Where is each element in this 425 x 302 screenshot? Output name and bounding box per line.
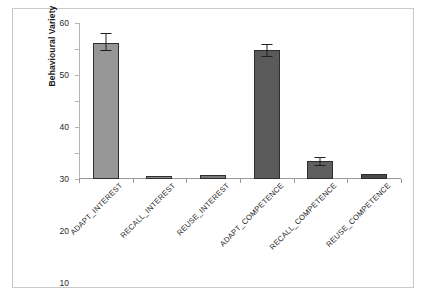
y-tick-label: 40 <box>60 122 69 132</box>
chart-screenshot: Behavioural Variety 0102030405060 ADAPT_… <box>0 0 425 302</box>
bar[interactable] <box>146 176 172 179</box>
y-tick-label: 10 <box>60 278 69 288</box>
bars-layer <box>79 23 401 179</box>
x-axis-labels: ADAPT_INTERESTRECALL_INTERESTREUSE_INTER… <box>79 181 401 291</box>
error-bar <box>315 157 326 166</box>
y-tick-label: 50 <box>60 70 69 80</box>
error-bar-cap-bottom <box>315 165 326 166</box>
error-bar-stem <box>266 44 267 58</box>
bar-group <box>186 23 240 179</box>
error-bar-stem <box>105 33 106 51</box>
bar-group <box>133 23 187 179</box>
x-tick-mark <box>401 179 402 183</box>
y-axis-title: Behavioural Variety <box>47 0 57 111</box>
plot-area: 0102030405060 <box>79 23 401 179</box>
y-tick-label: 60 <box>60 18 69 28</box>
error-bar-cap-bottom <box>100 50 111 51</box>
bar-group <box>79 23 133 179</box>
bar[interactable] <box>361 174 387 179</box>
error-bar-cap-bottom <box>261 56 272 57</box>
bar[interactable] <box>254 50 280 179</box>
bar-group <box>347 23 401 179</box>
bar-group <box>294 23 348 179</box>
y-tick-label: 20 <box>60 226 69 236</box>
error-bar <box>100 33 111 51</box>
error-bar <box>261 44 272 58</box>
bar[interactable] <box>93 43 119 179</box>
bar-group <box>240 23 294 179</box>
x-axis-label: REUSE_INTEREST <box>175 181 231 237</box>
x-axis-label: RECALL_INTEREST <box>119 181 178 240</box>
x-axis-label: ADAPT_INTEREST <box>68 181 124 237</box>
bar[interactable] <box>200 175 226 179</box>
y-tick-label: 30 <box>60 174 69 184</box>
figure-frame: Behavioural Variety 0102030405060 ADAPT_… <box>12 8 414 288</box>
